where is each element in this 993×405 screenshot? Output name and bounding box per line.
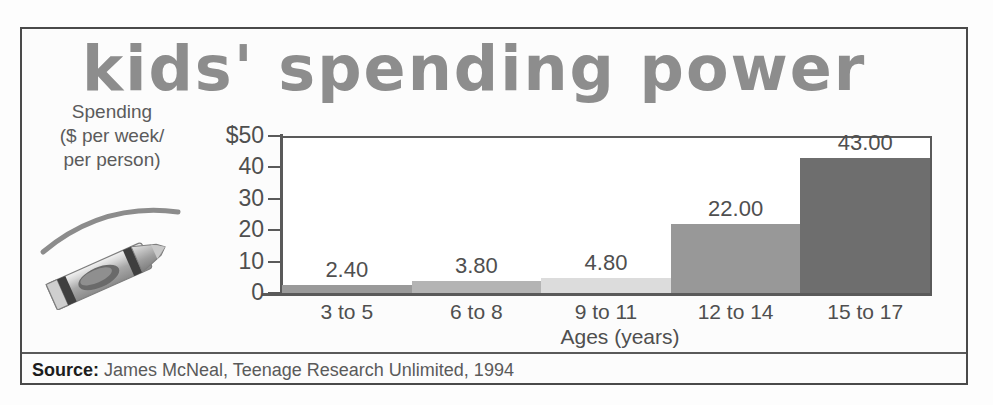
y-axis-caption-line-3: per person) — [22, 148, 202, 172]
source-prefix: Source: — [32, 360, 99, 380]
source-divider — [22, 352, 966, 354]
y-axis-caption-line-1: Spending — [22, 100, 202, 124]
crayon-illustration — [18, 190, 208, 310]
y-axis-caption-line-2: ($ per week/ — [22, 124, 202, 148]
crayon-body-group — [46, 234, 171, 310]
source-text: James McNeal, Teenage Research Unlimited… — [104, 360, 514, 380]
infographic-root: kids' spending power Spending ($ per wee… — [0, 0, 993, 405]
source-line: Source:James McNeal, Teenage Research Un… — [32, 358, 514, 382]
y-axis-caption: Spending ($ per week/ per person) — [22, 100, 202, 172]
page-title: kids' spending power — [60, 30, 940, 108]
